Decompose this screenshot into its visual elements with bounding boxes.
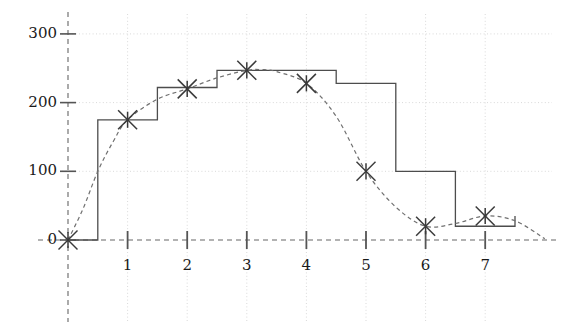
marker-x-5 [357,162,376,181]
marker-x-2 [178,79,197,98]
y-tick-label-0: 0 [47,232,57,247]
y-tick-label-200: 200 [28,95,57,110]
smooth-curve-path [68,69,545,240]
step-series-path [68,70,515,240]
x-tick-label-2: 2 [167,258,207,273]
x-tick-label-1: 1 [108,258,148,273]
data-point-markers [59,61,495,250]
x-tick-label-3: 3 [227,258,267,273]
x-tick-label-4: 4 [286,258,326,273]
x-tick-label-6: 6 [406,258,446,273]
chart-figure: 3002001000 1234567 [0,0,574,330]
vertical-gridlines [128,14,486,322]
y-tick-label-300: 300 [28,26,57,41]
marker-x-4 [297,74,316,93]
marker-x-6 [416,217,435,236]
y-axis-tickmarks [60,34,76,240]
x-tick-label-5: 5 [346,258,386,273]
x-axis-tickmarks [128,231,486,249]
y-tick-label-100: 100 [28,163,57,178]
horizontal-gridlines [62,34,552,171]
chart-plot-area [0,0,574,330]
x-tick-label-7: 7 [465,258,505,273]
axes [38,12,556,322]
